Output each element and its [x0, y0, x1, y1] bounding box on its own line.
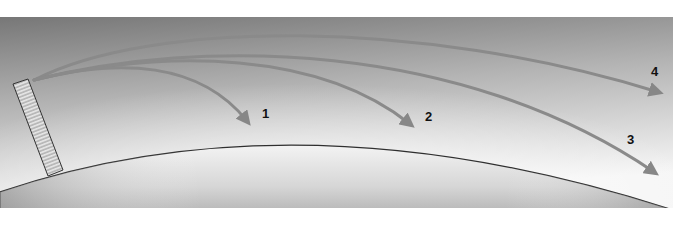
- path-label-4: 4: [651, 64, 659, 79]
- trajectory-diagram: 1 2 3 4: [0, 0, 696, 228]
- path-label-3: 3: [627, 132, 634, 147]
- path-label-1: 1: [262, 106, 269, 121]
- path-label-2: 2: [425, 109, 432, 124]
- diagram-panel: 1 2 3 4: [0, 17, 673, 228]
